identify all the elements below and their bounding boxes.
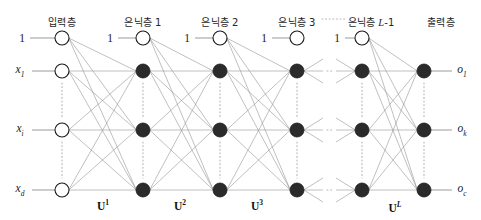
connection-edge <box>150 38 214 130</box>
hidden-node-l2-0 <box>213 64 227 78</box>
connection-edge <box>69 38 137 130</box>
connection-edge <box>304 59 323 71</box>
connection-edge <box>336 59 355 71</box>
connection-edge <box>369 38 418 71</box>
layer-title-input: 입력층 <box>48 14 75 29</box>
bias-input-label-1: 1 <box>107 32 113 44</box>
connection-edge <box>336 190 355 202</box>
hidden-node-l2-2 <box>213 183 227 197</box>
bias-node-layer-2 <box>213 31 227 45</box>
connection-edge <box>336 178 355 190</box>
connection-edge <box>150 38 214 71</box>
weight-matrix-label-1: U2 <box>174 198 186 212</box>
output-label-2: oc <box>457 182 466 197</box>
connection-edge <box>369 38 418 130</box>
connection-edge <box>336 118 355 130</box>
connection-edge <box>304 130 323 142</box>
input-label-0: x1 <box>16 63 25 78</box>
connection-edge <box>304 178 323 190</box>
connection-edge <box>369 38 418 190</box>
connection-edge <box>227 38 291 190</box>
output-node-2 <box>417 183 431 197</box>
hidden-node-l3-2 <box>290 183 304 197</box>
hidden-node-l2-1 <box>213 123 227 137</box>
bias-input-label-0: 1 <box>19 32 25 44</box>
input-node-2 <box>55 183 69 197</box>
output-node-0 <box>417 64 431 78</box>
connection-edge <box>150 38 214 190</box>
connection-edge <box>336 130 355 142</box>
hidden-node-l3-0 <box>290 64 304 78</box>
bias-node-layer-4 <box>355 31 369 45</box>
connection-edge <box>336 71 355 83</box>
input-node-0 <box>55 64 69 78</box>
connection-edge <box>69 38 137 190</box>
hidden-node-l3-1 <box>290 123 304 137</box>
hidden-L1-suffix: -1 <box>384 17 394 28</box>
bias-node-layer-0 <box>55 31 69 45</box>
input-label-1: xi <box>16 122 23 137</box>
connection-edge <box>227 38 291 71</box>
layer-title-output: 출력층 <box>427 14 454 29</box>
connection-edge <box>304 118 323 130</box>
weight-matrix-label-2: U3 <box>251 198 263 212</box>
output-node-1 <box>417 123 431 137</box>
connection-edge <box>304 190 323 202</box>
connection-edge <box>69 38 137 71</box>
weight-matrix-label-3: UL <box>389 200 402 214</box>
hidden-node-l4-1 <box>355 123 369 137</box>
hidden-node-l1-1 <box>136 123 150 137</box>
layer-title-hidden-3: 은닉층 3 <box>278 14 315 29</box>
layer-title-hidden-L-minus-1: 은닉층 L-1 <box>348 14 395 29</box>
output-label-1: ok <box>457 122 466 137</box>
hidden-node-l4-2 <box>355 183 369 197</box>
bias-node-layer-3 <box>290 31 304 45</box>
hidden-L1-prefix: 은닉층 <box>348 17 379 28</box>
input-label-2: xd <box>16 182 25 197</box>
hidden-node-l1-2 <box>136 183 150 197</box>
weight-matrix-label-0: U1 <box>97 198 109 212</box>
bias-input-label-2: 1 <box>184 32 190 44</box>
layer-title-hidden-2: 은닉층 2 <box>201 14 238 29</box>
bias-input-label-4: 1 <box>334 32 340 44</box>
hidden-node-l1-0 <box>136 64 150 78</box>
neural-network-diagram: 입력층 은닉층 1 은닉층 2 은닉층 3 은닉층 L-1 출력층 11111x… <box>0 0 481 220</box>
layer-title-hidden-1: 은닉층 1 <box>124 14 161 29</box>
bias-input-label-3: 1 <box>261 32 267 44</box>
bias-node-layer-1 <box>136 31 150 45</box>
connection-edge <box>304 71 323 83</box>
edge-group <box>30 38 452 202</box>
input-node-1 <box>55 123 69 137</box>
connection-edge <box>227 38 291 130</box>
output-label-0: o1 <box>457 63 467 78</box>
hidden-node-l4-0 <box>355 64 369 78</box>
network-graphic <box>0 0 481 220</box>
dotted-group <box>62 19 424 190</box>
